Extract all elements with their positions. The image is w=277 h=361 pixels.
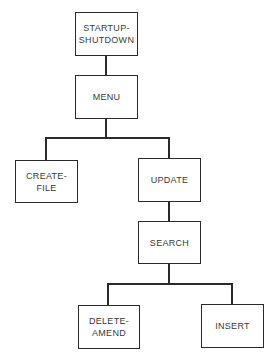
node-menu: MENU [75,75,138,119]
edge-branch-insert [231,283,233,304]
node-update: UPDATE [138,158,201,202]
node-insert: INSERT [201,304,264,348]
node-label: CREATE- FILE [26,170,67,194]
edge-branch-create [45,137,47,160]
node-label: STARTUP- SHUTDOWN [79,22,134,46]
edge-search-branch [107,283,232,285]
edge-branch-update [168,137,170,158]
node-label: SEARCH [150,237,189,249]
node-label: DELETE- AMEND [89,315,129,339]
node-delete-amend: DELETE- AMEND [78,305,140,349]
edge-menu-branch [45,137,169,139]
edge-menu-trunk [105,118,107,138]
edge-startup-menu [105,55,107,75]
node-label: UPDATE [151,174,189,186]
node-label: MENU [93,91,121,103]
node-startup-shutdown: STARTUP- SHUTDOWN [75,12,138,56]
edge-search-trunk [168,263,170,284]
edge-update-search [168,201,170,221]
node-search: SEARCH [138,221,201,264]
node-label: INSERT [215,320,250,332]
node-create-file: CREATE- FILE [15,160,78,203]
edge-branch-delete [107,283,109,305]
